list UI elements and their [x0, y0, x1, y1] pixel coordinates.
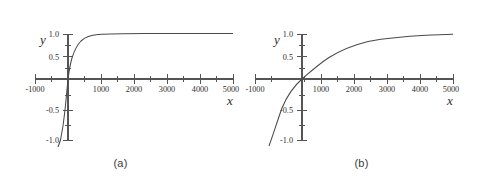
figure-container: -1000 1000 2000 3000 4000 5000 1.0 0.5 -… [0, 0, 483, 187]
y-axis-label-b: y [272, 32, 280, 47]
y-tick-label-b-2: -0.5 [280, 106, 293, 115]
y-axis-label-a: y [38, 32, 46, 47]
x-tick-label-a-0: -1000 [25, 85, 44, 94]
y-tick-label-a-3: -1.0 [46, 136, 59, 145]
panel-caption-b: (b) [241, 157, 482, 169]
y-tick-label-a-0: 1.0 [49, 30, 59, 39]
x-axis-label-b: x [446, 93, 453, 108]
panel-a: -1000 1000 2000 3000 4000 5000 1.0 0.5 -… [0, 0, 241, 187]
panel-caption-a: (a) [0, 157, 241, 169]
x-axis-label-a: x [226, 93, 233, 108]
y-tick-label-a-1: 0.5 [49, 53, 59, 62]
y-tick-label-b-1: 0.5 [283, 53, 293, 62]
y-tick-label-b-3: -1.0 [280, 136, 293, 145]
x-tick-label-b-3: 3000 [379, 85, 395, 94]
x-tick-label-b-4: 4000 [412, 85, 428, 94]
x-tick-label-a-4: 4000 [192, 85, 208, 94]
panel-b: -1000 1000 2000 3000 4000 5000 1.0 0.5 -… [241, 0, 482, 187]
y-tick-label-a-2: -0.5 [46, 106, 59, 115]
x-tick-label-a-3: 3000 [159, 85, 175, 94]
x-tick-label-a-1: 1000 [93, 85, 109, 94]
x-tick-label-a-2: 2000 [126, 85, 142, 94]
y-tick-label-b-0: 1.0 [283, 30, 293, 39]
x-tick-label-b-2: 2000 [346, 85, 362, 94]
x-tick-label-b-0: -1000 [245, 85, 264, 94]
x-tick-label-b-1: 1000 [313, 85, 329, 94]
